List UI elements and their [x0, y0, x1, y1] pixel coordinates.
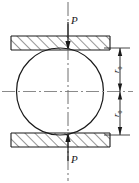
radius-label-bottom: r0	[112, 110, 123, 117]
dim-arrowhead-mid-upper	[118, 84, 122, 92]
diagram-canvas	[0, 0, 139, 183]
dim-arrowhead-bottom	[118, 127, 122, 135]
force-label-top: P	[71, 15, 78, 26]
force-label-bottom: P	[71, 154, 78, 165]
radius-label-top: r0	[112, 66, 123, 73]
radius-label-top-subscript: 0	[117, 66, 123, 69]
radius-label-top-base: r	[111, 69, 121, 73]
dim-arrowhead-top	[118, 48, 122, 56]
radius-label-bottom-subscript: 0	[117, 110, 123, 113]
dim-arrowhead-mid-lower	[118, 92, 122, 100]
figure-container: P P r0 r0	[0, 0, 139, 183]
radius-label-bottom-base: r	[111, 113, 121, 117]
